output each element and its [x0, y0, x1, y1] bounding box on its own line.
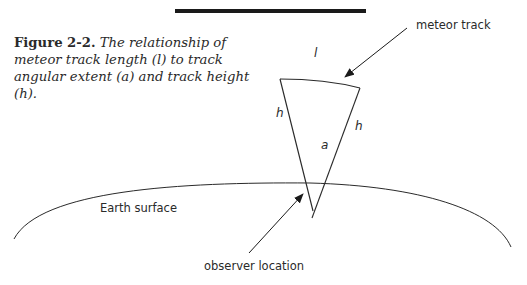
header-rule [175, 9, 366, 13]
earth-surface-arc [14, 183, 511, 247]
height-variable-left: h [276, 106, 284, 120]
earth-surface-label: Earth surface [100, 201, 177, 215]
observer-location-label: observer location [204, 259, 304, 273]
meteor-geometry-diagram: meteor track Earth surface observer loca… [0, 0, 527, 285]
height-line-right [312, 88, 360, 218]
height-variable-right: h [355, 119, 363, 133]
height-line-left [280, 79, 313, 211]
meteor-track-label: meteor track [416, 18, 491, 32]
observer-location-arrow [249, 194, 303, 253]
meteor-track-arrow [345, 28, 407, 77]
track-length-variable: l [314, 46, 318, 60]
angular-extent-variable: a [321, 138, 328, 152]
meteor-track-arc [280, 79, 360, 88]
